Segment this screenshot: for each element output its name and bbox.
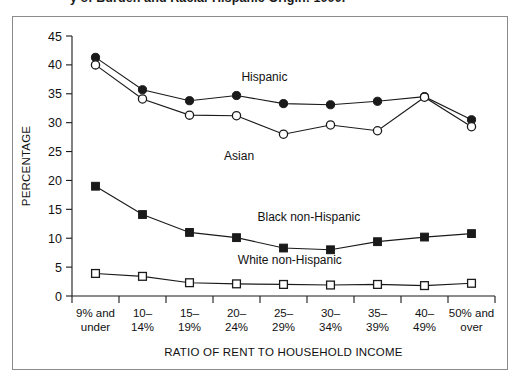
- data-point-marker: [373, 97, 381, 105]
- x-tick-label: 15–: [180, 307, 200, 319]
- data-point-marker: [233, 280, 241, 288]
- series-line: [96, 57, 472, 119]
- x-tick-label: 24%: [225, 321, 248, 333]
- data-point-marker: [374, 238, 382, 246]
- y-tick-label: 0: [55, 290, 62, 304]
- data-point-marker: [280, 244, 288, 252]
- data-point-marker: [326, 101, 334, 109]
- data-point-marker: [421, 233, 429, 241]
- x-axis-title: RATIO OF RENT TO HOUSEHOLD INCOME: [164, 346, 402, 358]
- y-tick-label: 30: [48, 116, 62, 130]
- data-point-marker: [92, 270, 100, 278]
- x-tick-label: under: [81, 321, 111, 333]
- data-point-marker: [185, 111, 193, 119]
- data-point-marker: [232, 91, 240, 99]
- y-tick-label: 5: [55, 261, 62, 275]
- data-point-marker: [280, 281, 288, 289]
- x-tick-label: 49%: [413, 321, 436, 333]
- x-tick-label: 30–: [321, 307, 341, 319]
- series-annotation-label: White non-Hispanic: [238, 253, 342, 267]
- data-point-marker: [279, 100, 287, 108]
- y-tick-label: 20: [48, 174, 62, 188]
- series-annotation-label: Hispanic: [241, 70, 287, 84]
- line-chart: 051015202530354045PERCENTAGE9% andunder1…: [0, 0, 521, 383]
- series-annotation-label: Asian: [224, 149, 254, 163]
- data-point-marker: [139, 211, 147, 219]
- y-tick-label: 15: [48, 203, 62, 217]
- data-point-marker: [279, 130, 287, 138]
- data-point-marker: [467, 123, 475, 131]
- series-annotation-label: Black non-Hispanic: [258, 210, 361, 224]
- x-tick-label: 19%: [178, 321, 201, 333]
- y-tick-label: 45: [48, 30, 62, 44]
- y-axis-title: PERCENTAGE: [20, 126, 32, 207]
- data-point-marker: [420, 93, 428, 101]
- x-tick-label: 29%: [272, 321, 295, 333]
- x-tick-label: 50% and: [449, 307, 494, 319]
- y-tick-label: 35: [48, 87, 62, 101]
- data-point-marker: [374, 281, 382, 289]
- x-tick-label: 34%: [319, 321, 342, 333]
- y-tick-label: 10: [48, 232, 62, 246]
- y-tick-label: 40: [48, 58, 62, 72]
- x-tick-label: 9% and: [76, 307, 115, 319]
- x-tick-label: 39%: [366, 321, 389, 333]
- data-point-marker: [185, 97, 193, 105]
- series-hispanic: [91, 53, 475, 124]
- series-white-non-hispanic: [92, 270, 476, 290]
- data-point-marker: [139, 272, 147, 280]
- data-point-marker: [421, 282, 429, 290]
- x-tick-label: 25–: [274, 307, 294, 319]
- chart-canvas: 051015202530354045PERCENTAGE9% andunder1…: [0, 0, 521, 383]
- screenshot-root: y of Burden and Racial-Hispanic Origin: …: [0, 0, 521, 383]
- data-point-marker: [468, 279, 476, 287]
- x-tick-label: 35–: [368, 307, 388, 319]
- data-point-marker: [91, 61, 99, 69]
- x-tick-label: over: [460, 321, 483, 333]
- x-tick-label: 14%: [131, 321, 154, 333]
- data-point-marker: [326, 121, 334, 129]
- data-point-marker: [373, 127, 381, 135]
- data-point-marker: [233, 234, 241, 242]
- data-point-marker: [138, 86, 146, 94]
- data-point-marker: [186, 229, 194, 237]
- data-point-marker: [468, 230, 476, 238]
- x-tick-label: 20–: [227, 307, 247, 319]
- data-point-marker: [186, 279, 194, 287]
- data-point-marker: [138, 95, 146, 103]
- y-tick-label: 25: [48, 145, 62, 159]
- data-point-marker: [327, 281, 335, 289]
- data-point-marker: [232, 112, 240, 120]
- x-tick-label: 40–: [415, 307, 435, 319]
- data-point-marker: [92, 182, 100, 190]
- x-tick-label: 10–: [133, 307, 153, 319]
